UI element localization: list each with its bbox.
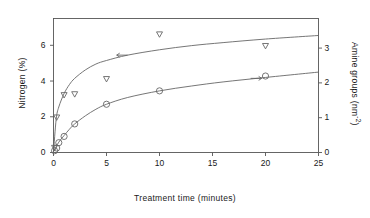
series-curve-amine-groups bbox=[54, 72, 319, 152]
series-curve-nitrogen bbox=[54, 35, 319, 152]
y-right-tick-label-2: 2 bbox=[325, 77, 345, 87]
x-tick-label-20: 20 bbox=[256, 158, 276, 168]
x-axis-title: Treatment time (minutes) bbox=[0, 193, 370, 203]
x-tick-label-25: 25 bbox=[309, 158, 329, 168]
data-point-circle-7 bbox=[262, 73, 268, 79]
data-point-circle-3 bbox=[61, 133, 67, 139]
plot-frame bbox=[54, 19, 319, 153]
data-point-triangle-down-3 bbox=[72, 92, 78, 97]
x-tick-label-5: 5 bbox=[97, 158, 117, 168]
y-left-tick-label-0: 0 bbox=[26, 147, 46, 157]
x-tick-label-10: 10 bbox=[150, 158, 170, 168]
y-left-tick-label-2: 2 bbox=[26, 111, 46, 121]
y-axis-right-title-close: ) bbox=[350, 123, 360, 126]
y-left-tick-label-4: 4 bbox=[26, 76, 46, 86]
y-axis-right-title-text: Amine groups (nm bbox=[350, 42, 360, 116]
series-markers-amine-groups bbox=[51, 73, 268, 154]
plot-area bbox=[0, 0, 370, 218]
y-right-tick-label-0: 0 bbox=[325, 147, 345, 157]
figure-container: Nitrogen (%) Amine groups (nm-2) Treatme… bbox=[0, 0, 370, 218]
y-axis-right-title: Amine groups (nm-2) bbox=[350, 24, 362, 144]
y-right-tick-label-1: 1 bbox=[325, 112, 345, 122]
axis-pointer-right-arrow bbox=[251, 76, 262, 80]
y-right-tick-label-3: 3 bbox=[325, 43, 345, 53]
x-tick-label-0: 0 bbox=[44, 158, 64, 168]
y-left-tick-label-6: 6 bbox=[26, 40, 46, 50]
x-tick-label-15: 15 bbox=[203, 158, 223, 168]
data-point-triangle-down-5 bbox=[157, 32, 163, 37]
data-point-triangle-down-6 bbox=[263, 43, 269, 48]
data-point-triangle-down-4 bbox=[104, 77, 110, 82]
